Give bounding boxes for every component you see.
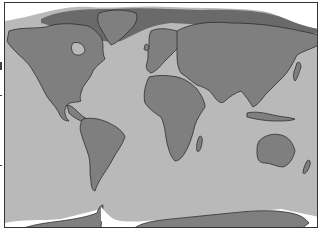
british-isles (144, 44, 149, 50)
edge-mark (0, 165, 2, 166)
map-canvas (5, 3, 318, 228)
edge-mark (0, 95, 2, 96)
edge-mark (0, 62, 2, 70)
world-map (4, 2, 318, 228)
